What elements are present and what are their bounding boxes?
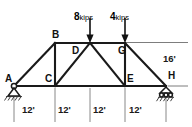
truss-diagram: A B C D E G H 8kips 4kips 16' 12' 12' 12…: [0, 0, 192, 127]
arrowhead-4-kips: [121, 35, 128, 44]
dimension-label-span-3: 12': [93, 105, 106, 115]
support-H-roller-3: [169, 93, 173, 97]
dimension-label-span-4: 12': [129, 105, 142, 115]
dimension-ticks: [14, 88, 166, 122]
joint-label-H: H: [168, 71, 175, 81]
joint-label-E: E: [127, 74, 134, 84]
support-H-roller-1: [160, 93, 164, 97]
joint-label-C: C: [45, 74, 52, 84]
joint-label-G: G: [118, 46, 126, 56]
extension-lines: [125, 43, 188, 87]
support-H-roller-2: [164, 93, 168, 97]
dimension-label-span-1: 12': [22, 105, 35, 115]
joint-label-B: B: [52, 30, 59, 40]
load-4-unit: kips: [116, 13, 129, 22]
support-H-triangle: [160, 87, 172, 93]
load-label-4-kips: 4kips: [110, 6, 129, 24]
load-label-8-kips: 8kips: [74, 6, 93, 24]
load-8-unit: kips: [80, 13, 93, 22]
joint-label-A: A: [5, 74, 12, 84]
support-A-triangle: [8, 88, 20, 96]
dimension-label-span-2: 12': [58, 105, 71, 115]
truss-members: [14, 43, 166, 86]
arrowhead-8-kips: [86, 35, 93, 44]
joint-label-D: D: [72, 46, 79, 56]
support-roller-H: [157, 87, 175, 101]
dimension-label-height: 16': [163, 54, 176, 64]
